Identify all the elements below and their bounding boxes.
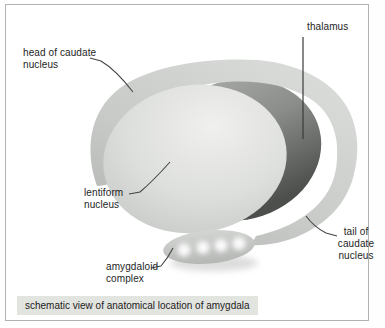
label-tail-of-caudate-nucleus: tail of caudate nucleus (331, 226, 381, 262)
label-line: nucleus (23, 59, 96, 71)
label-thalamus: thalamus (307, 21, 348, 33)
label-line: complex (106, 273, 158, 285)
figure-canvas: head of caudate nucleus thalamus lentifo… (0, 0, 385, 328)
label-lentiform-nucleus: lentiform nucleus (84, 187, 123, 211)
label-line: lentiform (84, 187, 123, 199)
label-line: amygdaloid (106, 261, 158, 273)
label-line: thalamus (307, 21, 348, 33)
label-line: nucleus (84, 199, 123, 211)
label-amygdaloid-complex: amygdaloid complex (106, 261, 158, 285)
caption-text: schematic view of anatomical location of… (25, 300, 250, 311)
label-line: tail of (331, 226, 381, 238)
label-line: head of caudate (23, 47, 96, 59)
label-line: nucleus (331, 250, 381, 262)
label-line: caudate (331, 238, 381, 250)
label-head-of-caudate-nucleus: head of caudate nucleus (23, 47, 96, 71)
figure-caption: schematic view of anatomical location of… (17, 296, 258, 315)
